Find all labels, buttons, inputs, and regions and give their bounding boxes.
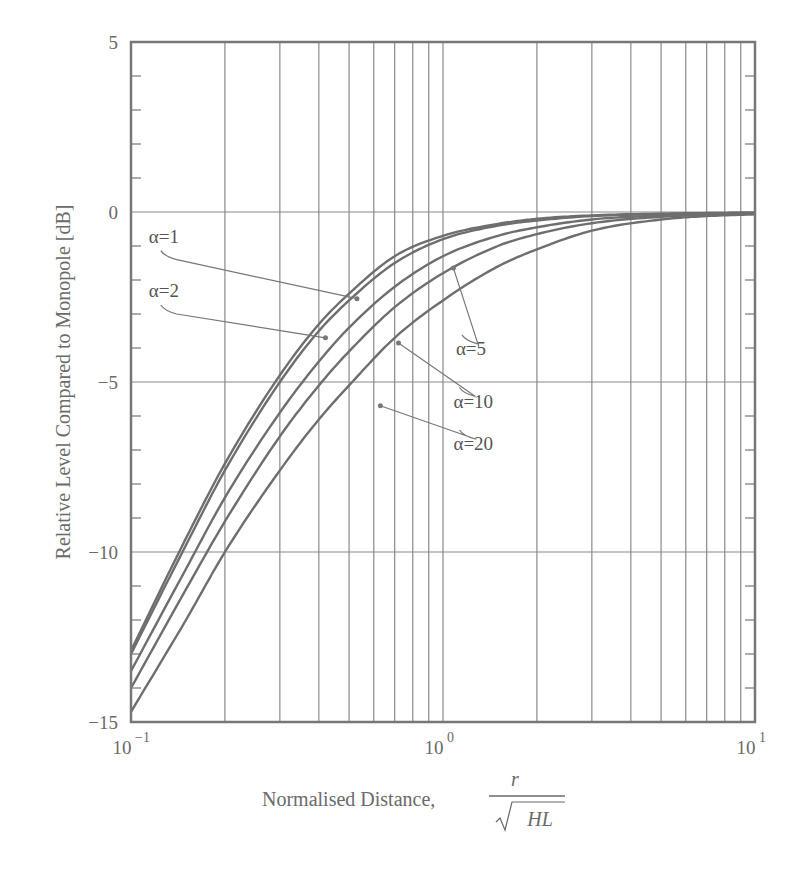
x-axis-title-denominator: HL bbox=[526, 808, 553, 830]
x-axis-title-text: Normalised Distance, bbox=[262, 788, 435, 810]
chart: α=1α=2α=5α=10α=20 50−5−10−15 10−1100101 … bbox=[0, 0, 805, 871]
y-tick-label: −10 bbox=[88, 542, 118, 563]
x-tick-exponent: 0 bbox=[447, 730, 454, 745]
x-axis-title: Normalised Distance, r HL bbox=[262, 768, 565, 830]
annotation-label: α=2 bbox=[149, 280, 179, 301]
x-tick-label: 10 bbox=[113, 737, 132, 758]
y-axis-tick-labels: 50−5−10−15 bbox=[88, 32, 118, 733]
annotation-point bbox=[396, 340, 401, 345]
y-axis-title: Relative Level Compared to Monopole [dB] bbox=[52, 205, 75, 560]
annotation-label: α=20 bbox=[453, 433, 493, 454]
y-tick-label: −5 bbox=[98, 372, 118, 393]
annotation-leader bbox=[161, 251, 357, 299]
annotation-label: α=1 bbox=[149, 226, 179, 247]
x-tick-exponent: 1 bbox=[759, 730, 766, 745]
x-axis-title-numerator: r bbox=[511, 768, 519, 790]
annotation-point bbox=[354, 296, 359, 301]
y-tick-label: 5 bbox=[109, 32, 119, 53]
annotation-point bbox=[451, 266, 456, 271]
annotation-point bbox=[323, 335, 328, 340]
x-axis-tick-labels: 10−1100101 bbox=[113, 730, 767, 758]
annotation-label: α=10 bbox=[453, 391, 493, 412]
y-tick-label: −15 bbox=[88, 712, 118, 733]
curve-annotations: α=1α=2α=5α=10α=20 bbox=[149, 226, 493, 454]
annotation-leader bbox=[161, 305, 326, 338]
y-tick-label: 0 bbox=[109, 202, 119, 223]
x-tick-label: 10 bbox=[425, 737, 444, 758]
annotation-point bbox=[378, 403, 383, 408]
x-tick-exponent: −1 bbox=[135, 730, 150, 745]
grid-lines bbox=[131, 42, 755, 722]
x-tick-label: 10 bbox=[737, 737, 756, 758]
